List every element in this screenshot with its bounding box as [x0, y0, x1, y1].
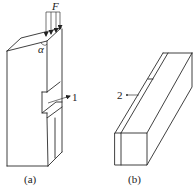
- panel-a-specimen: F α 1 (a): [7, 0, 78, 186]
- diagram-canvas: F α 1 (a) 2 (b): [0, 0, 196, 190]
- caption-a: (a): [24, 173, 37, 186]
- leader-dot-2: [126, 94, 128, 96]
- notch-step: [47, 107, 62, 118]
- specimen-top-back-edge: [7, 28, 61, 51]
- bar-strip-edge: [121, 53, 168, 133]
- specimen-front-right-edge-lower: [47, 118, 48, 166]
- specimen-top-front-edge: [7, 28, 61, 51]
- bar-front-face: [115, 133, 147, 165]
- part-label-1: 1: [72, 91, 78, 103]
- panel-b-bar: 2 (b): [115, 53, 192, 186]
- caption-b: (b): [128, 173, 141, 186]
- force-arrows: [46, 12, 60, 36]
- notch-upper-slope: [47, 82, 60, 92]
- part-label-2: 2: [117, 89, 123, 101]
- notch-lower-slope: [42, 102, 62, 113]
- bar-top-right-edge: [147, 53, 192, 133]
- angle-label: α: [38, 43, 44, 55]
- bar-bottom-right-edge: [147, 53, 192, 165]
- force-label: F: [51, 0, 59, 12]
